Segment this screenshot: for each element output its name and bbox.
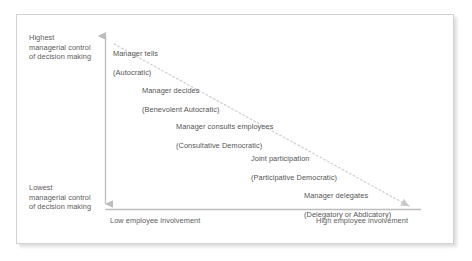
step-label-2: Manager decides (Benevolent Autocratic): [142, 76, 220, 115]
step-label-5: Manager delegates (Delegatory or Abdicat…: [304, 181, 391, 220]
step-3-subtitle: (Consultative Democratic): [176, 141, 262, 150]
step-1-title: Manager tells: [113, 49, 158, 58]
step-label-1: Manager tells (Autocratic): [113, 39, 158, 78]
step-5-title: Manager delegates: [304, 191, 368, 200]
step-3-title: Manager consults employees: [176, 122, 273, 131]
diagram-canvas: Highest managerial control of decision m…: [0, 0, 472, 261]
step-2-title: Manager decides: [142, 86, 199, 95]
step-label-4: Joint participation (Participative Democ…: [251, 144, 337, 183]
step-5-subtitle: (Delegatory or Abdicatory): [304, 210, 391, 219]
y-axis-bottom-label: Lowest managerial control of decision ma…: [29, 183, 107, 212]
step-4-title: Joint participation: [251, 154, 309, 163]
x-axis-left-label: Low employee involvement: [110, 216, 200, 226]
y-axis-top-label: Highest managerial control of decision m…: [29, 33, 107, 62]
